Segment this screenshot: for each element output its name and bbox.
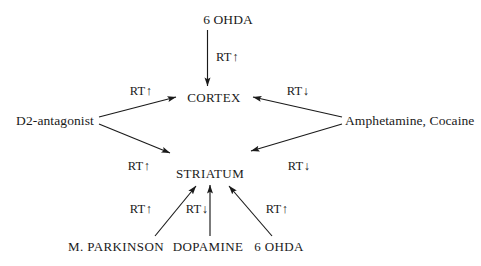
edge-label-text: RT [186, 202, 202, 216]
edge-label-ohda-bottom-to-striatum: RT↑ [266, 203, 289, 216]
edge-label-text: RT [266, 202, 282, 216]
node-bottom-source-dopamine: DOPAMINE [173, 240, 244, 253]
arrow-down-icon: ↓ [201, 202, 208, 216]
diagram-canvas: 6 OHDA CORTEX D2-antagonist Amphetamine,… [0, 0, 481, 266]
edge-label-amph-to-cortex: RT↓ [287, 85, 310, 98]
node-left-source-d2-antagonist: D2-antagonist [16, 114, 94, 128]
arrow-up-icon: ↑ [143, 159, 150, 173]
edge-label-d2-to-striatum: RT↑ [128, 160, 151, 173]
edge-layer [0, 0, 481, 266]
node-cortex: CORTEX [187, 91, 241, 104]
edge-label-d2-to-cortex: RT↑ [130, 85, 153, 98]
edge-label-dopamine-to-striatum: RT↓ [186, 203, 209, 216]
edge-label-text: RT [130, 202, 146, 216]
arrow-down-icon: ↓ [302, 84, 309, 98]
arrow-up-icon: ↑ [232, 50, 239, 64]
node-top-source-ohda: 6 OHDA [203, 13, 253, 27]
edge-d2-to-striatum [99, 124, 170, 153]
edge-label-text: RT [288, 159, 304, 173]
node-striatum: STRIATUM [176, 167, 244, 180]
node-right-source-amphetamine-cocaine: Amphetamine, Cocaine [345, 114, 474, 128]
edge-amph-to-striatum [251, 124, 342, 151]
edge-label-text: RT [128, 159, 144, 173]
node-bottom-source-ohda: 6 OHDA [254, 240, 304, 253]
edge-label-parkinson-to-striatum: RT↑ [130, 203, 153, 216]
edge-label-text: RT [130, 84, 146, 98]
edge-label-amph-to-striatum: RT↓ [288, 160, 311, 173]
edge-label-text: RT [216, 50, 232, 64]
arrow-up-icon: ↑ [145, 202, 152, 216]
edge-d2-to-cortex [99, 97, 176, 117]
arrow-up-icon: ↑ [145, 84, 152, 98]
arrow-down-icon: ↓ [303, 159, 310, 173]
edge-amph-to-cortex [253, 97, 342, 117]
arrow-up-icon: ↑ [281, 202, 288, 216]
node-bottom-source-parkinson: M. PARKINSON [68, 240, 164, 253]
edge-label-ohda-to-cortex: RT↑ [216, 51, 239, 64]
edge-label-text: RT [287, 84, 303, 98]
